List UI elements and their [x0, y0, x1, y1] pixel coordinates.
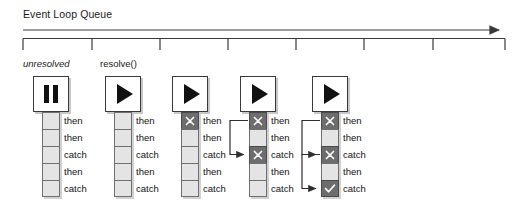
queue-cell-then-1: then	[321, 112, 339, 129]
queue-cell-then-4: then	[114, 163, 132, 180]
queue-cell-then-1: then	[249, 112, 267, 129]
promise-state-box	[172, 76, 208, 112]
queue-cell-label: catch	[64, 150, 87, 160]
x-icon	[250, 147, 266, 163]
play-icon	[173, 77, 207, 111]
phase-label-resolve: resolve()	[100, 58, 137, 69]
queue-cell-label: then	[271, 167, 290, 177]
queue-cell-label: catch	[203, 150, 226, 160]
queue-cell-stack: thenthencatchthencatch	[114, 112, 132, 197]
play-icon	[241, 77, 275, 111]
timeline-axis	[0, 24, 525, 52]
queue-cell-label: catch	[203, 184, 226, 194]
queue-cell-catch-3: catch	[114, 146, 132, 163]
play-triangle	[252, 84, 268, 104]
queue-cell-then-2: then	[42, 129, 60, 146]
queue-cell-then-4: then	[42, 163, 60, 180]
queue-cell-label: then	[203, 116, 222, 126]
queue-cell-catch-5: catch	[249, 180, 267, 197]
queue-cell-stack: thenthencatchthencatch	[181, 112, 199, 197]
queue-cell-catch-5: catch	[321, 180, 339, 197]
promise-state-box	[33, 76, 69, 112]
play-triangle	[324, 84, 340, 104]
queue-cell-then-4: then	[249, 163, 267, 180]
queue-cell-label: then	[343, 116, 362, 126]
queue-cell-catch-5: catch	[42, 180, 60, 197]
pause-bar-left	[44, 85, 49, 103]
pause-bar-right	[53, 85, 58, 103]
check-icon	[322, 181, 338, 196]
queue-cell-catch-5: catch	[181, 180, 199, 197]
queue-cell-label: catch	[343, 184, 366, 194]
queue-cell-then-2: then	[321, 129, 339, 146]
promise-state-box	[312, 76, 348, 112]
queue-cell-label: catch	[64, 184, 87, 194]
queue-cell-label: then	[271, 133, 290, 143]
queue-cell-label: then	[136, 167, 155, 177]
queue-cell-label: then	[64, 167, 83, 177]
play-icon	[313, 77, 347, 111]
queue-cell-then-2: then	[181, 129, 199, 146]
x-icon	[250, 113, 266, 129]
play-triangle	[184, 84, 200, 104]
x-icon	[182, 113, 198, 129]
queue-cell-label: then	[343, 133, 362, 143]
queue-cell-then-2: then	[114, 129, 132, 146]
queue-cell-then-1: then	[114, 112, 132, 129]
queue-cell-label: then	[136, 133, 155, 143]
queue-cell-catch-3: catch	[249, 146, 267, 163]
queue-cell-label: catch	[271, 150, 294, 160]
promise-state-box	[105, 76, 141, 112]
queue-cell-catch-3: catch	[181, 146, 199, 163]
queue-cell-stack: thenthencatchthencatch	[249, 112, 267, 197]
play-triangle	[117, 84, 133, 104]
queue-cell-label: then	[136, 116, 155, 126]
queue-cell-stack: thenthencatchthencatch	[321, 112, 339, 197]
promise-state-box	[240, 76, 276, 112]
queue-cell-label: catch	[271, 184, 294, 194]
queue-cell-catch-3: catch	[321, 146, 339, 163]
queue-cell-label: catch	[343, 150, 366, 160]
queue-cell-label: then	[203, 167, 222, 177]
queue-cell-catch-5: catch	[114, 180, 132, 197]
queue-cell-label: then	[64, 133, 83, 143]
queue-cell-stack: thenthencatchthencatch	[42, 112, 60, 197]
queue-cell-label: catch	[136, 150, 159, 160]
page-title: Event Loop Queue	[23, 8, 112, 20]
connector-0-to-2	[302, 121, 320, 155]
queue-cell-label: then	[203, 133, 222, 143]
connector-0-to-2	[230, 121, 248, 155]
queue-cell-then-4: then	[321, 163, 339, 180]
queue-cell-label: then	[64, 116, 83, 126]
pause-icon	[34, 77, 68, 111]
connector-2-to-4	[302, 155, 320, 189]
play-icon	[106, 77, 140, 111]
queue-cell-catch-3: catch	[42, 146, 60, 163]
queue-cell-label: then	[271, 116, 290, 126]
phase-label-unresolved: unresolved	[23, 58, 69, 69]
queue-cell-label: catch	[136, 184, 159, 194]
queue-cell-label: then	[343, 167, 362, 177]
queue-cell-then-2: then	[249, 129, 267, 146]
event-loop-queue-diagram: Event Loop Queue unresolvedresolve() the…	[0, 0, 525, 209]
queue-cell-then-1: then	[42, 112, 60, 129]
queue-cell-then-1: then	[181, 112, 199, 129]
x-icon	[322, 147, 338, 163]
x-icon	[322, 113, 338, 129]
queue-cell-then-4: then	[181, 163, 199, 180]
